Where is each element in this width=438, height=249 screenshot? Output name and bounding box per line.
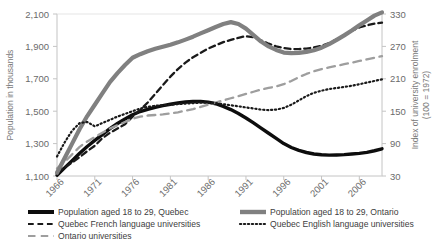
chart-container: 1,1001,3001,5001,7001,9002,100 309015021… bbox=[0, 0, 438, 249]
y-tick-label: 2,100 bbox=[25, 9, 49, 20]
x-tick-label: 1996 bbox=[270, 176, 293, 199]
y-tick-label: 1,500 bbox=[25, 106, 49, 117]
y2-tick-label: 30 bbox=[390, 171, 401, 182]
chart-legend: Population aged 18 to 29, QuebecQuebec F… bbox=[28, 207, 414, 241]
plot-frame bbox=[57, 14, 382, 176]
x-tick-label: 1971 bbox=[81, 176, 104, 199]
x-tick-label: 1981 bbox=[157, 176, 180, 199]
y-axis-right-title-line: (100 = 1972) bbox=[421, 71, 431, 120]
y-tick-label: 1,900 bbox=[25, 41, 49, 52]
y2-tick-label: 330 bbox=[390, 9, 406, 20]
legend-label: Quebec French language universities bbox=[58, 219, 200, 229]
y-tick-label: 1,700 bbox=[25, 73, 49, 84]
y-axis-right-ticks: 3090150210270330 bbox=[382, 9, 406, 182]
y-axis-right-title: Index of university enrolment(100 = 1972… bbox=[410, 40, 431, 149]
y2-tick-label: 90 bbox=[390, 138, 401, 149]
legend-label: Quebec English language universities bbox=[270, 219, 414, 229]
y-axis-left-title: Population in thousands bbox=[5, 50, 15, 141]
legend-label: Ontario universities bbox=[58, 231, 132, 241]
line-chart: 1,1001,3001,5001,7001,9002,100 309015021… bbox=[0, 0, 438, 249]
x-axis-ticks: 196619711976198119861991199620012006 bbox=[43, 176, 368, 199]
legend-label: Population aged 18 to 29, Ontario bbox=[270, 207, 399, 217]
plot-area bbox=[57, 14, 382, 176]
y-tick-label: 1,100 bbox=[25, 171, 49, 182]
x-tick-label: 1976 bbox=[119, 176, 142, 199]
y-tick-label: 1,300 bbox=[25, 138, 49, 149]
x-tick-label: 2001 bbox=[308, 176, 331, 199]
x-tick-label: 2006 bbox=[345, 176, 368, 199]
x-tick-label: 1986 bbox=[194, 176, 217, 199]
y2-tick-label: 210 bbox=[390, 73, 406, 84]
y2-tick-label: 270 bbox=[390, 41, 406, 52]
x-tick-label: 1991 bbox=[232, 176, 255, 199]
legend-label: Population aged 18 to 29, Quebec bbox=[58, 207, 189, 217]
y-axis-left-ticks: 1,1001,3001,5001,7001,9002,100 bbox=[25, 9, 57, 182]
y2-tick-label: 150 bbox=[390, 106, 406, 117]
y-axis-right-title-line: Index of university enrolment bbox=[410, 40, 420, 149]
